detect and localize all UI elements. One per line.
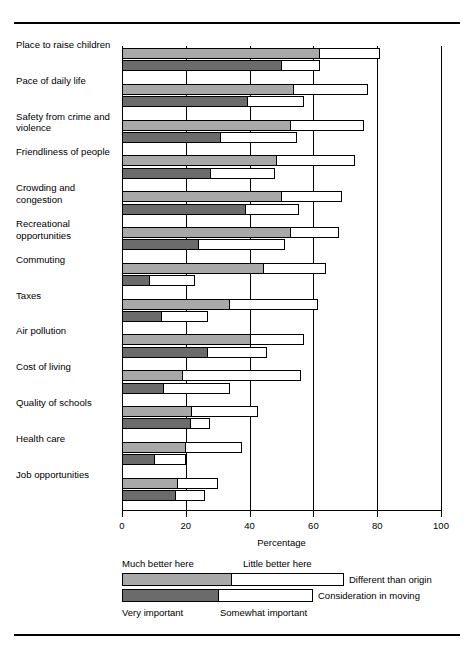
bar-consideration-in-moving (122, 60, 441, 71)
bar-segment-much-better-here (122, 406, 192, 417)
bar-consideration-in-moving (122, 347, 441, 358)
bar-consideration-in-moving (122, 490, 441, 501)
legend-very-important: Very important (122, 607, 183, 618)
legend-label-consideration-in-moving: Consideration in moving (318, 590, 420, 601)
bar-segment-much-better-here (122, 263, 264, 274)
bar-segment-much-better-here (122, 334, 251, 345)
legend-little-better-here: Little better here (243, 558, 312, 569)
bar-segment-very-important (122, 239, 199, 250)
bar-segment-much-better-here (122, 155, 277, 166)
legend-swatch-much-better-here (122, 573, 232, 586)
bar-segment-much-better-here (122, 48, 320, 59)
legend-much-better-here: Much better here (122, 558, 194, 569)
bar-segment-very-important (122, 60, 282, 71)
bar-segment-much-better-here (122, 478, 178, 489)
bar-segment-much-better-here (122, 191, 282, 202)
category-label: Commuting (16, 254, 116, 266)
category-label: Job opportunities (16, 469, 116, 481)
bar-different-than-origin (122, 191, 441, 202)
bar-consideration-in-moving (122, 96, 441, 107)
bar-segment-very-important (122, 275, 150, 286)
gridline-100 (441, 46, 442, 511)
x-tick-60 (313, 511, 314, 517)
bar-different-than-origin (122, 155, 441, 166)
bar-consideration-in-moving (122, 383, 441, 394)
bar-segment-much-better-here (122, 299, 230, 310)
x-tick-label-60: 60 (293, 520, 333, 531)
category-label: Cost of living (16, 361, 116, 373)
bar-different-than-origin (122, 84, 441, 95)
x-tick-label-100: 100 (421, 520, 461, 531)
category-label: Quality of schools (16, 397, 116, 409)
bar-consideration-in-moving (122, 311, 441, 322)
bar-different-than-origin (122, 227, 441, 238)
top-rule (14, 22, 460, 24)
category-label: Pace of daily life (16, 75, 116, 87)
bar-consideration-in-moving (122, 454, 441, 465)
x-tick-0 (122, 511, 123, 517)
bar-consideration-in-moving (122, 168, 441, 179)
category-label: Place to raise children (16, 39, 116, 51)
category-label: Health care (16, 433, 116, 445)
bar-segment-very-important (122, 132, 221, 143)
x-tick-label-40: 40 (230, 520, 270, 531)
x-tick-label-0: 0 (102, 520, 142, 531)
category-label: Taxes (16, 290, 116, 302)
bar-consideration-in-moving (122, 418, 441, 429)
bottom-rule (14, 634, 460, 636)
bar-different-than-origin (122, 478, 441, 489)
bar-different-than-origin (122, 334, 441, 345)
bar-different-than-origin (122, 442, 441, 453)
x-tick-20 (186, 511, 187, 517)
category-label: Safety from crime and violence (16, 111, 116, 134)
bar-consideration-in-moving (122, 204, 441, 215)
bar-different-than-origin (122, 263, 441, 274)
category-label: Recreational opportunities (16, 218, 116, 241)
bar-segment-much-better-here (122, 227, 291, 238)
category-label: Friendliness of people (16, 146, 116, 158)
bar-segment-very-important (122, 311, 162, 322)
bar-different-than-origin (122, 299, 441, 310)
x-tick-40 (250, 511, 251, 517)
bar-segment-very-important (122, 418, 191, 429)
bar-consideration-in-moving (122, 132, 441, 143)
chart-plot-area (122, 46, 441, 511)
bar-consideration-in-moving (122, 239, 441, 250)
legend-label-different-than-origin: Different than origin (349, 574, 432, 585)
bar-different-than-origin (122, 370, 441, 381)
bar-segment-very-important (122, 490, 176, 501)
category-label: Air pollution (16, 325, 116, 337)
x-tick-80 (377, 511, 378, 517)
legend-swatch-little-better-here (231, 573, 344, 586)
bar-segment-much-better-here (122, 84, 294, 95)
bar-segment-very-important (122, 454, 155, 465)
bar-segment-very-important (122, 347, 208, 358)
legend-swatch-somewhat-important (218, 589, 313, 602)
bar-segment-much-better-here (122, 120, 291, 131)
bar-segment-much-better-here (122, 370, 183, 381)
x-axis-line (122, 510, 441, 511)
bar-segment-very-important (122, 168, 211, 179)
x-tick-label-20: 20 (166, 520, 206, 531)
bar-segment-much-better-here (122, 442, 186, 453)
x-tick-100 (441, 511, 442, 517)
legend-swatch-very-important (122, 589, 219, 602)
bar-consideration-in-moving (122, 275, 441, 286)
bar-different-than-origin (122, 48, 441, 59)
x-tick-label-80: 80 (357, 520, 397, 531)
bar-different-than-origin (122, 406, 441, 417)
bar-segment-very-important (122, 204, 246, 215)
bar-segment-very-important (122, 96, 248, 107)
bar-different-than-origin (122, 120, 441, 131)
legend-somewhat-important: Somewhat important (220, 607, 307, 618)
category-label: Crowding and congestion (16, 182, 116, 205)
bar-segment-very-important (122, 383, 164, 394)
x-axis-title: Percentage (122, 537, 441, 548)
